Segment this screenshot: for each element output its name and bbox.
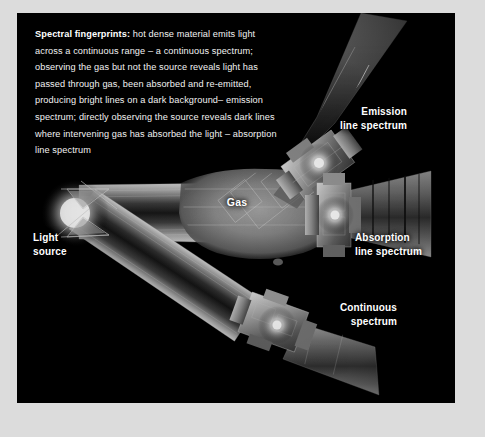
spectral-fingerprints-figure: Spectral fingerprints: hot dense materia… [17, 13, 455, 403]
label-gas: Gas [207, 196, 267, 210]
label-light-source: Light source [33, 231, 123, 258]
label-emission-line-spectrum: Emission line spectrum [297, 105, 407, 132]
caption-lead: Spectral fingerprints: [35, 29, 130, 39]
label-continuous-spectrum: Continuous spectrum [287, 301, 397, 328]
caption-body: hot dense material emits light across a … [35, 29, 277, 155]
label-absorption-line-spectrum: Absorption line spectrum [355, 231, 455, 258]
caption-text: Spectral fingerprints: hot dense materia… [35, 26, 283, 159]
